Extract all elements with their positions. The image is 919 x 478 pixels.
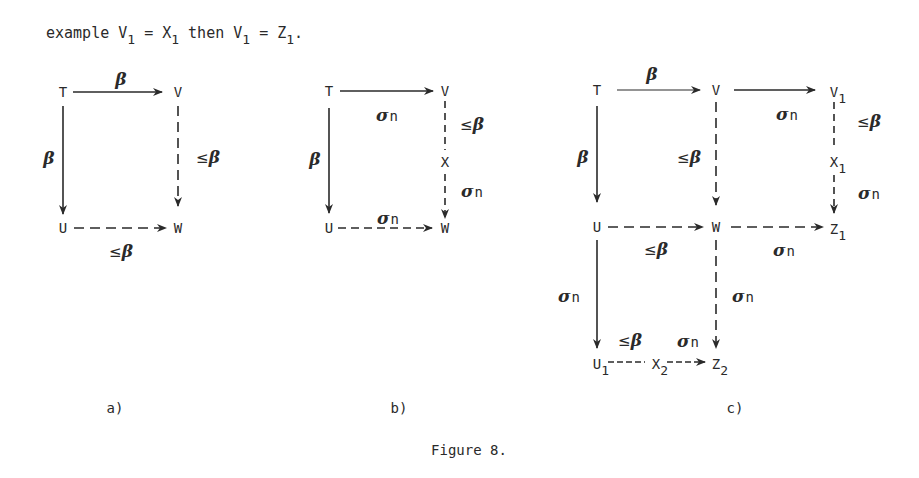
label-c-T-U: β (577, 149, 588, 166)
node-a-V: V (174, 85, 182, 99)
node-c-V: V (712, 83, 720, 97)
node-c-T: T (593, 83, 601, 97)
node-c-Z1: Z1 (830, 222, 846, 237)
node-a-W: W (174, 221, 182, 235)
label-b-V-X: ≤β (460, 116, 484, 133)
label-c-X2-Z2: σn (677, 333, 699, 350)
label-b-X-W: σn (461, 183, 483, 200)
label-c-V-V1: σn (776, 106, 798, 123)
node-b-U: U (325, 221, 333, 235)
node-b-T: T (325, 84, 333, 98)
caption-b: b) (391, 400, 408, 416)
label-a-T-U: β (43, 150, 54, 167)
node-c-V1: V1 (830, 85, 846, 100)
label-c-U-W: ≤β (644, 241, 668, 258)
label-c-W-Z2: σn (732, 288, 754, 305)
node-c-U1: U1 (593, 357, 609, 372)
node-c-Z2: Z2 (712, 357, 728, 372)
label-c-U-U1: σn (558, 288, 580, 305)
label-c-X1-Z1: σn (858, 185, 880, 202)
label-b-U-W: σn (377, 210, 399, 227)
node-c-X1: X1 (830, 155, 846, 170)
label-b-T-U: β (309, 151, 320, 168)
label-c-V1-X1: ≤β (857, 113, 881, 130)
caption-a: a) (107, 400, 124, 416)
node-c-W: W (712, 220, 720, 234)
node-b-W: W (441, 221, 449, 235)
label-b-T-V: σn (376, 107, 398, 124)
label-c-V-W: ≤β (677, 149, 701, 166)
label-a-T-V: β (115, 71, 126, 88)
caption-c: c) (727, 400, 744, 416)
label-c-T-V: β (646, 66, 657, 83)
node-c-X2: X2 (652, 357, 668, 372)
node-a-T: T (59, 85, 67, 99)
label-c-W-Z1: σn (773, 242, 795, 259)
label-c-U1-X2: ≤β (618, 332, 642, 349)
node-c-U: U (593, 220, 601, 234)
node-b-V: V (441, 84, 449, 98)
label-a-U-W: ≤β (109, 243, 133, 260)
node-a-U: U (59, 221, 67, 235)
figure-caption: Figure 8. (431, 442, 507, 458)
node-b-X: X (441, 155, 449, 169)
label-a-V-W: ≤β (196, 149, 220, 166)
